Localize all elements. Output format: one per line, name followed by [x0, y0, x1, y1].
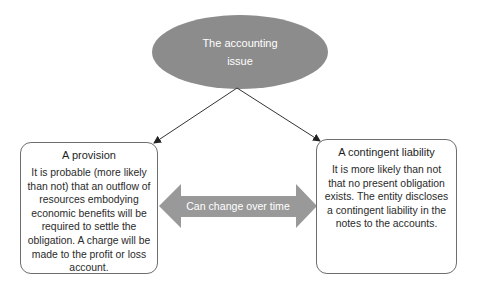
connector-arrow-right	[237, 88, 320, 141]
double-arrow-label: Can change over time	[180, 196, 296, 216]
provision-box: A provision It is probable (more likely …	[20, 142, 158, 274]
contingent-liability-title: A contingent liability	[323, 144, 450, 161]
root-label-line2: issue	[227, 52, 253, 70]
root-node-label: The accounting issue	[152, 15, 328, 89]
provision-title: A provision	[27, 147, 151, 164]
contingent-liability-description: It is more likely than not that no prese…	[323, 163, 450, 231]
contingent-liability-box: A contingent liability It is more likely…	[316, 139, 457, 274]
provision-description: It is probable (more likely than not) th…	[27, 166, 151, 275]
connector-arrow-left	[154, 88, 237, 143]
root-label-line1: The accounting	[202, 34, 277, 52]
